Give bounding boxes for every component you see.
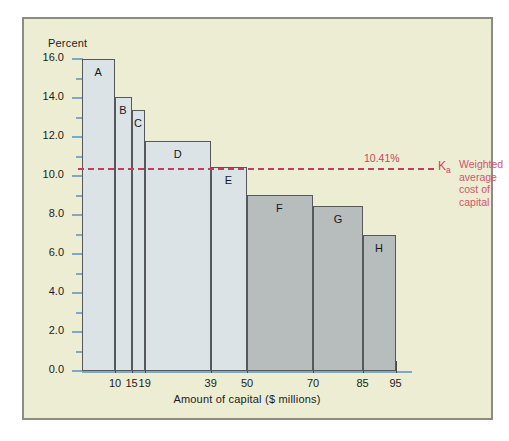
bar-a: [82, 59, 115, 371]
wacc-symbol-subscript: a: [446, 165, 451, 175]
wacc-symbol-label: Ka: [438, 159, 451, 175]
x-axis-title: Amount of capital ($ millions): [42, 393, 452, 405]
x-tick-label: 85: [348, 377, 378, 389]
wacc-description-label: Weightedaveragecost ofcapital: [459, 158, 503, 208]
wacc-value-label: 10.41%: [364, 152, 400, 164]
x-tick-label: 39: [196, 377, 226, 389]
bar-c: [132, 110, 145, 371]
bar-label-b: B: [119, 104, 126, 116]
x-tick-label: 50: [232, 377, 262, 389]
figure-plate: Percent 0.02.04.06.08.010.012.014.016.0 …: [22, 17, 493, 420]
y-tick-label: 6.0: [24, 246, 64, 258]
bar-g: [313, 206, 363, 371]
bar-b: [115, 97, 132, 371]
bar-label-h: H: [375, 242, 383, 254]
x-tick-label: 95: [381, 377, 411, 389]
bar-label-c: C: [134, 117, 142, 129]
x-tick-label: 70: [298, 377, 328, 389]
y-tick-label: 14.0: [24, 90, 64, 102]
bar-d: [145, 141, 211, 371]
bar-label-f: F: [276, 202, 283, 214]
y-tick-label: 8.0: [24, 207, 64, 219]
chart-plot-area: Percent 0.02.04.06.08.010.012.014.016.0 …: [24, 19, 495, 422]
y-tick-label: 12.0: [24, 129, 64, 141]
x-tick: [396, 361, 397, 373]
bar-f: [247, 195, 313, 371]
y-tick-label: 16.0: [24, 51, 64, 63]
y-tick-label: 0.0: [24, 363, 64, 375]
bar-e: [211, 167, 247, 371]
bar-label-d: D: [174, 148, 182, 160]
x-tick-label: 19: [130, 377, 160, 389]
y-tick-label: 10.0: [24, 168, 64, 180]
bar-label-g: G: [334, 213, 343, 225]
wacc-description-line-3: cost of: [459, 183, 503, 196]
bar-h: [363, 235, 396, 372]
y-tick-label: 4.0: [24, 285, 64, 297]
wacc-description-line-1: Weighted: [459, 158, 503, 171]
wacc-description-line-4: capital: [459, 196, 503, 209]
bar-label-a: A: [95, 66, 102, 78]
bar-label-e: E: [225, 174, 232, 186]
y-tick-label: 2.0: [24, 324, 64, 336]
figure-root: Percent 0.02.04.06.08.010.012.014.016.0 …: [0, 0, 509, 441]
wacc-reference-line: [78, 168, 434, 170]
y-axis-title: Percent: [48, 37, 87, 49]
wacc-description-line-2: average: [459, 171, 503, 184]
